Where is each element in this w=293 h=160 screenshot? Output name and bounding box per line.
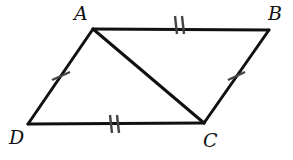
vertex-label-d: D	[9, 128, 24, 147]
vertex-label-c: C	[203, 131, 218, 150]
tick-mark-ab-2	[182, 16, 184, 34]
segment-ac-diagonal	[93, 29, 204, 123]
vertex-label-a: A	[74, 4, 88, 23]
quadrilateral-svg	[0, 0, 293, 160]
tick-mark-dc-1	[110, 115, 112, 133]
vertex-label-b: B	[268, 4, 282, 23]
tick-mark-ab-1	[175, 16, 177, 34]
tick-mark-dc-2	[117, 115, 119, 133]
segment-dc	[28, 123, 204, 124]
segment-ab	[93, 29, 269, 30]
geometry-figure: A B C D	[0, 0, 293, 160]
